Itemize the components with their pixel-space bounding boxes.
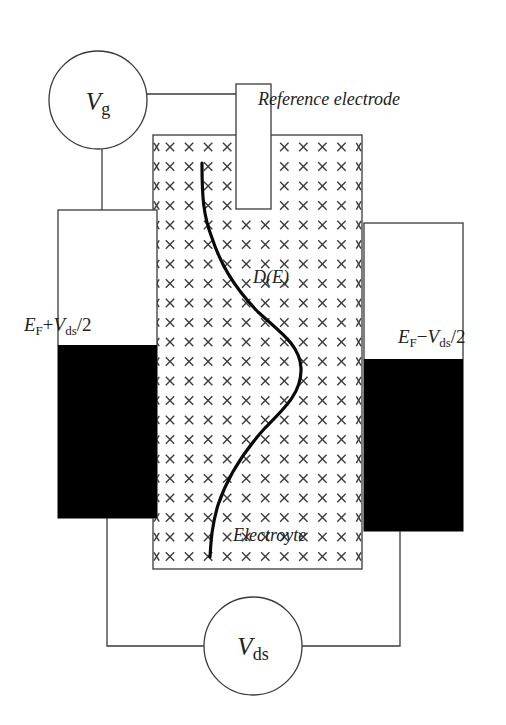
gate-voltage-meter: Vg [49,51,147,149]
dos-label: D(E) [252,267,289,288]
left-electrode [58,210,157,518]
right-electrode-filled-states [364,359,463,531]
drain-source-voltage-meter: Vds [204,597,302,695]
left-fermi-level-label: EF+Vds/2 [23,314,92,338]
diagram-canvas: Vg Vds Reference electrode D(E) Electroy… [0,0,506,725]
right-fermi-level-label: EF−Vds/2 [397,326,466,350]
right-electrode [364,223,463,531]
left-electrode-filled-states [58,345,157,518]
electrolyte-label: Electroyte [232,525,306,545]
reference-electrode-label: Reference electrode [257,89,400,109]
